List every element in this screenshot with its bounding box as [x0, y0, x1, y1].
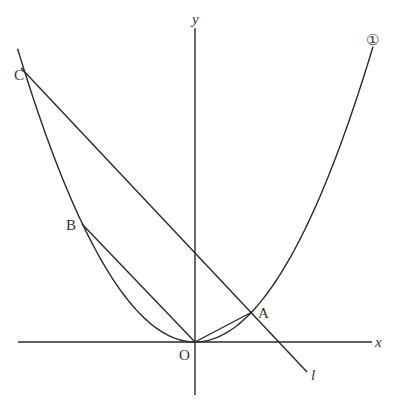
segment-oa: [195, 312, 252, 342]
point-c-label: C: [14, 67, 24, 83]
curve-label: ①: [366, 32, 379, 48]
line-l: [21, 68, 307, 372]
x-axis-label: x: [374, 334, 382, 350]
point-a-label: A: [258, 305, 269, 321]
line-l-label: l: [311, 367, 315, 383]
origin-label: O: [179, 347, 190, 363]
parabola-diagram: y x O ① l A B C: [0, 0, 401, 412]
segment-ob: [82, 224, 195, 342]
point-b-label: B: [66, 217, 76, 233]
y-axis-label: y: [190, 11, 199, 27]
